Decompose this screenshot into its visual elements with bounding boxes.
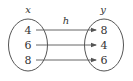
codomain-value: 6 xyxy=(101,54,108,67)
domain-value: 4 xyxy=(25,24,32,37)
domain-label: x xyxy=(25,4,31,15)
mapping-diagram: x y h 4 6 8 8 4 6 xyxy=(0,0,133,81)
codomain-label: y xyxy=(99,4,106,15)
codomain-value: 4 xyxy=(101,39,108,52)
function-label: h xyxy=(63,15,69,26)
domain-value: 8 xyxy=(25,54,32,67)
domain-value: 6 xyxy=(25,39,32,52)
codomain-value: 8 xyxy=(101,24,108,37)
